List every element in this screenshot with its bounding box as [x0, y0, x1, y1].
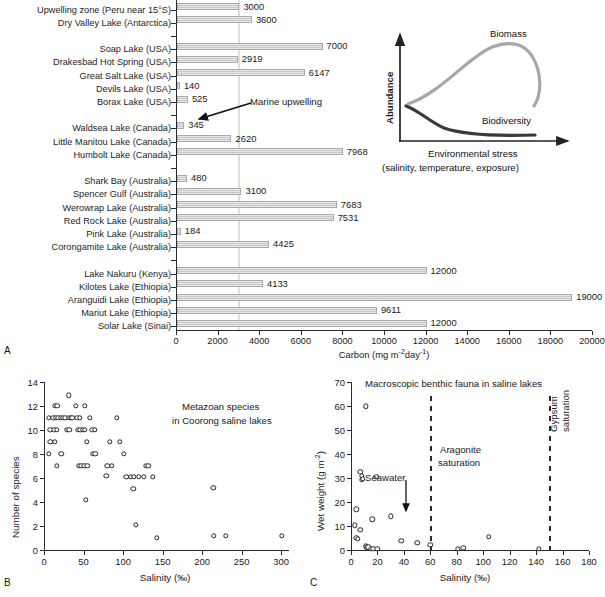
panel-a-bar [177, 82, 180, 89]
x-tick-label: 140 [528, 556, 544, 567]
x-tick [44, 551, 45, 555]
data-point [369, 517, 374, 522]
panel-a-x-tick-label: 10000 [371, 336, 397, 346]
y-tick [40, 430, 44, 431]
panel-a-category-label: Upwelling zone (Peru near 15°S) [37, 5, 171, 15]
panel-a-x-tick [426, 331, 427, 335]
panel-a-y-tick [171, 155, 176, 156]
panel-a-bar-value: 7683 [341, 200, 362, 209]
panel-a-y-tick [171, 260, 176, 261]
panel-a-category-label: Dry Valley Lake (Antarctica) [58, 18, 171, 28]
panel-a-category-label: Humbolt Lake (Canada) [73, 150, 171, 160]
y-tick [40, 478, 44, 479]
data-point [46, 451, 51, 456]
panel-a-bar [177, 96, 188, 103]
x-tick [123, 551, 124, 555]
x-label-end: ) [426, 349, 429, 360]
panel-a-y-tick [171, 181, 176, 182]
panel-a-bar-value: 4425 [273, 239, 294, 248]
aragonite-label-line1: Aragonite [440, 444, 481, 455]
panel-a-bar-value: 4133 [267, 279, 288, 288]
panel-a-bar [177, 228, 181, 235]
x-tick-label: 150 [155, 556, 171, 567]
y-tick [347, 382, 351, 383]
data-point [59, 451, 64, 456]
data-point [363, 404, 368, 409]
data-point [83, 497, 88, 502]
panel-a-category-label: Devils Lake (USA) [96, 84, 171, 94]
x-tick [430, 551, 431, 555]
x-tick [536, 551, 537, 555]
x-tick-label: 0 [348, 556, 353, 567]
panel-a-bar [177, 16, 252, 23]
data-point [279, 533, 284, 538]
y-tick-label: 0 [14, 545, 38, 556]
panel-a-y-tick [171, 194, 176, 195]
panel-a-bar [177, 148, 343, 155]
y-tick [347, 406, 351, 407]
data-point [355, 536, 360, 541]
x-tick-label: 80 [452, 556, 462, 567]
panel-a-y-tick [171, 221, 176, 222]
x-tick-label: 250 [234, 556, 250, 567]
panel-a-bar [177, 175, 187, 182]
y-tick-label: 60 [321, 401, 345, 412]
y-tick [40, 526, 44, 527]
panel-a-x-tick [550, 331, 551, 335]
panel-a-y-tick [171, 10, 176, 11]
panel-a-y-tick [171, 76, 176, 77]
panel-a-y-tick [171, 62, 176, 63]
x-label-main: Carbon (mg m [339, 349, 399, 360]
biodiversity-curve-label: Biodiversity [482, 115, 531, 126]
data-point [54, 463, 59, 468]
x-tick [563, 551, 564, 555]
panel-a-bar [177, 56, 238, 63]
panel-b-note-line1: Metazoan species [182, 401, 259, 412]
data-point [150, 474, 155, 479]
x-tick-label: 50 [78, 556, 88, 567]
panel-a-x-tick [384, 331, 385, 335]
panel-a-category-label: Solar Lake (Sinai) [98, 321, 171, 331]
y-tick-label: 12 [14, 401, 38, 412]
y-tick [40, 382, 44, 383]
panel-a-letter: A [4, 345, 11, 356]
data-point [114, 415, 119, 420]
x-tick [457, 551, 458, 555]
data-point [104, 473, 109, 478]
panel-a-x-axis-title: Carbon (mg m-2day-1) [176, 348, 592, 360]
panel-a-x-tick [509, 331, 510, 335]
data-point [67, 427, 72, 432]
panel-a-x-tick-label: 12000 [413, 336, 439, 346]
y-tick-label: 70 [321, 377, 345, 388]
panel-a-bar-value: 3000 [243, 2, 264, 11]
data-point [121, 451, 126, 456]
data-point [82, 403, 87, 408]
x-tick [84, 551, 85, 555]
data-point [154, 535, 159, 540]
panel-b-x-axis-label: Salinity (‰) [140, 572, 191, 583]
panel-a-bar-value: 184 [185, 226, 201, 235]
panel-a-x-tick [342, 331, 343, 335]
x-tick [281, 551, 282, 555]
panel-a-bar [177, 294, 572, 301]
panel-a-category-label: Werowrap Lake (Australia) [62, 203, 171, 213]
x-tick [589, 551, 590, 555]
x-tick-label: 100 [475, 556, 491, 567]
panel-a-x-tick-label: 18000 [538, 336, 564, 346]
panel-a-bar-value: 480 [191, 173, 207, 182]
panel-a-y-tick [171, 89, 176, 90]
data-point [352, 523, 357, 528]
data-point [77, 415, 82, 420]
panel-c-y-axis-label: Wet weight (g m-2) [314, 451, 326, 531]
panel-a-category-label: Pink Lake (Australia) [86, 229, 171, 239]
panel-a-bar [177, 122, 184, 129]
x-tick [163, 551, 164, 555]
panel-a-category-label: Great Salt Lake (USA) [80, 71, 171, 81]
y-tick [347, 454, 351, 455]
panel-a-category-label: Lake Nakuru (Kenya) [84, 269, 171, 279]
x-tick-label: 100 [115, 556, 131, 567]
panel-a-category-label: Little Manitou Lake (Canada) [53, 137, 171, 147]
y-tick [40, 502, 44, 503]
x-tick [202, 551, 203, 555]
panel-a-y-tick [171, 247, 176, 248]
